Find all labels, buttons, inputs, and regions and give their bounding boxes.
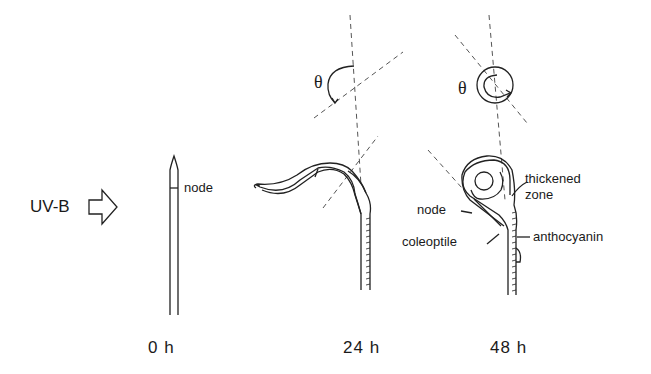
- node-label-48h: node: [417, 202, 446, 217]
- seedling-24h: [254, 163, 370, 290]
- coleoptile-label: coleoptile: [402, 234, 457, 249]
- anthocyanin-label: anthocyanin: [533, 229, 603, 244]
- time-label-0h: 0 h: [148, 338, 175, 358]
- time-label-48h: 48 h: [490, 338, 527, 358]
- uvb-label: UV-B: [30, 197, 70, 217]
- seedling-0h: [170, 156, 178, 315]
- uvb-arrow-icon: [89, 190, 117, 224]
- node-label-0h: node: [184, 180, 213, 195]
- diagram-canvas: [0, 0, 651, 374]
- theta-symbol-24h: θ: [314, 72, 323, 93]
- thickened-label: thickened: [525, 171, 581, 186]
- zone-label: zone: [525, 187, 553, 202]
- angle-circle-48h: [477, 67, 513, 103]
- time-label-24h: 24 h: [343, 338, 380, 358]
- angle-arc-24h: [328, 66, 354, 103]
- theta-symbol-48h: θ: [458, 78, 467, 99]
- seedling-48h: [462, 156, 521, 295]
